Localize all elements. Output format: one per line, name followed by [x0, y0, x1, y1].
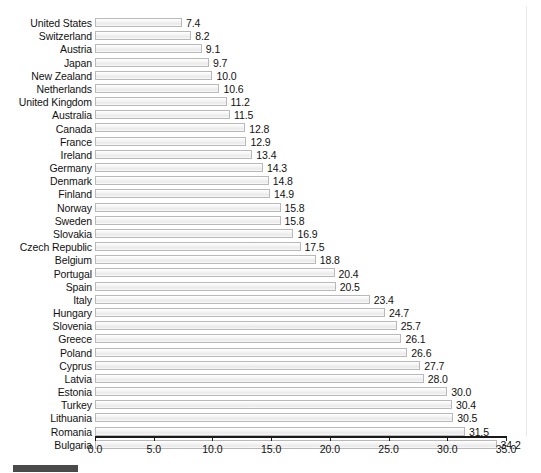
category-label: Slovenia	[53, 321, 92, 332]
bar-value-label: 30.5	[457, 413, 477, 424]
category-label: Canada	[56, 123, 92, 134]
bar	[95, 282, 336, 291]
bar-value-label: 14.8	[273, 176, 293, 187]
x-axis-tick	[506, 436, 507, 441]
category-label: Estonia	[58, 387, 92, 398]
category-label: Sweden	[55, 215, 92, 226]
x-axis-tick	[389, 436, 390, 441]
category-label: Portugal	[54, 268, 92, 279]
category-label: Hungary	[53, 308, 92, 319]
category-label: United Kingdom	[19, 97, 92, 108]
bar	[95, 334, 401, 343]
bar-row: Switzerland8.2	[95, 29, 526, 43]
bar	[95, 123, 245, 132]
bar-row: Hungary24.7	[95, 306, 526, 320]
bar	[95, 150, 252, 159]
bar-row: Estonia30.0	[95, 385, 526, 399]
bar-value-label: 30.4	[456, 400, 476, 411]
bar-row: Greece26.1	[95, 332, 526, 346]
bar	[95, 84, 219, 93]
bar-value-label: 11.2	[231, 97, 250, 108]
bar	[95, 137, 246, 146]
bar	[95, 58, 209, 67]
bar-row: Ireland13.4	[95, 148, 526, 162]
x-axis-tick-label: 30.0	[437, 443, 457, 455]
bar-row: Cyprus27.7	[95, 359, 526, 373]
x-axis-tick-label: 20.0	[320, 443, 340, 455]
category-label: Finland	[58, 189, 92, 200]
bar-value-label: 27.7	[424, 360, 444, 371]
bar-value-label: 20.4	[339, 268, 359, 279]
bar-chart: United States7.4Switzerland8.2Austria9.1…	[0, 0, 541, 473]
bar-value-label: 26.1	[405, 334, 425, 345]
bar-row: Slovakia16.9	[95, 227, 526, 241]
category-label: Greece	[58, 334, 92, 345]
category-label: Netherlands	[36, 83, 92, 94]
bar	[95, 255, 316, 264]
bar-value-label: 11.5	[234, 110, 253, 121]
x-axis-tick-label: 5.0	[146, 443, 161, 455]
category-label: Australia	[52, 110, 92, 121]
bar-row: New Zealand10.0	[95, 69, 526, 83]
plot-area: United States7.4Switzerland8.2Austria9.1…	[95, 6, 527, 436]
x-axis-tick	[447, 436, 448, 441]
bar	[95, 163, 263, 172]
bar-row: Netherlands10.6	[95, 82, 526, 96]
bar	[95, 44, 202, 53]
bar	[95, 387, 447, 396]
bar-value-label: 12.9	[250, 136, 270, 147]
bar-value-label: 14.9	[274, 189, 294, 200]
bar	[95, 321, 397, 330]
bar-row: United States7.4	[95, 16, 526, 30]
bar	[95, 31, 191, 40]
x-axis-tick	[330, 436, 331, 441]
bar	[95, 348, 407, 357]
bar	[95, 97, 227, 106]
x-axis-tick	[271, 436, 272, 441]
x-axis-tick-label: 25.0	[378, 443, 398, 455]
category-label: Japan	[64, 57, 92, 68]
bar-row: Latvia28.0	[95, 372, 526, 386]
bar	[95, 203, 281, 212]
bar-row: Czech Republic17.5	[95, 240, 526, 254]
bar-value-label: 14.3	[267, 163, 287, 174]
bar-value-label: 24.7	[389, 308, 409, 319]
bar-value-label: 15.8	[285, 215, 305, 226]
category-label: Czech Republic	[20, 242, 92, 253]
x-axis-tick	[154, 436, 155, 441]
category-label: France	[60, 136, 92, 147]
category-label: Switzerland	[39, 31, 92, 42]
bar-value-label: 18.8	[320, 255, 340, 266]
bar-row: Spain20.5	[95, 280, 526, 294]
bar-row: Turkey30.4	[95, 398, 526, 412]
bar-row: Germany14.3	[95, 161, 526, 175]
legend-swatch	[13, 465, 78, 472]
bar	[95, 110, 230, 119]
bar-value-label: 9.1	[206, 44, 220, 55]
category-label: Norway	[57, 202, 92, 213]
category-label: New Zealand	[31, 70, 92, 81]
x-axis-tick	[212, 436, 213, 441]
category-label: Austria	[60, 44, 92, 55]
bar	[95, 374, 424, 383]
category-label: Romania	[51, 426, 92, 437]
x-axis-line	[95, 436, 506, 438]
category-label: Latvia	[65, 373, 92, 384]
bar-value-label: 9.7	[213, 57, 227, 68]
bar-value-label: 23.4	[374, 294, 394, 305]
category-label: Poland	[60, 347, 92, 358]
bar-value-label: 17.5	[305, 242, 325, 253]
bar-value-label: 16.9	[297, 228, 317, 239]
bar-value-label: 13.4	[256, 149, 276, 160]
bar-value-label: 28.0	[428, 373, 448, 384]
category-label: Denmark	[50, 176, 92, 187]
x-axis-tick-label: 35.0	[496, 443, 516, 455]
bar-row: Sweden15.8	[95, 214, 526, 228]
bar	[95, 216, 281, 225]
bar	[95, 400, 452, 409]
bar-row: Finland14.9	[95, 187, 526, 201]
bar	[95, 361, 420, 370]
category-label: Turkey	[61, 400, 92, 411]
bar-row: Lithuania30.5	[95, 411, 526, 425]
bar-row: Slovenia25.7	[95, 319, 526, 333]
